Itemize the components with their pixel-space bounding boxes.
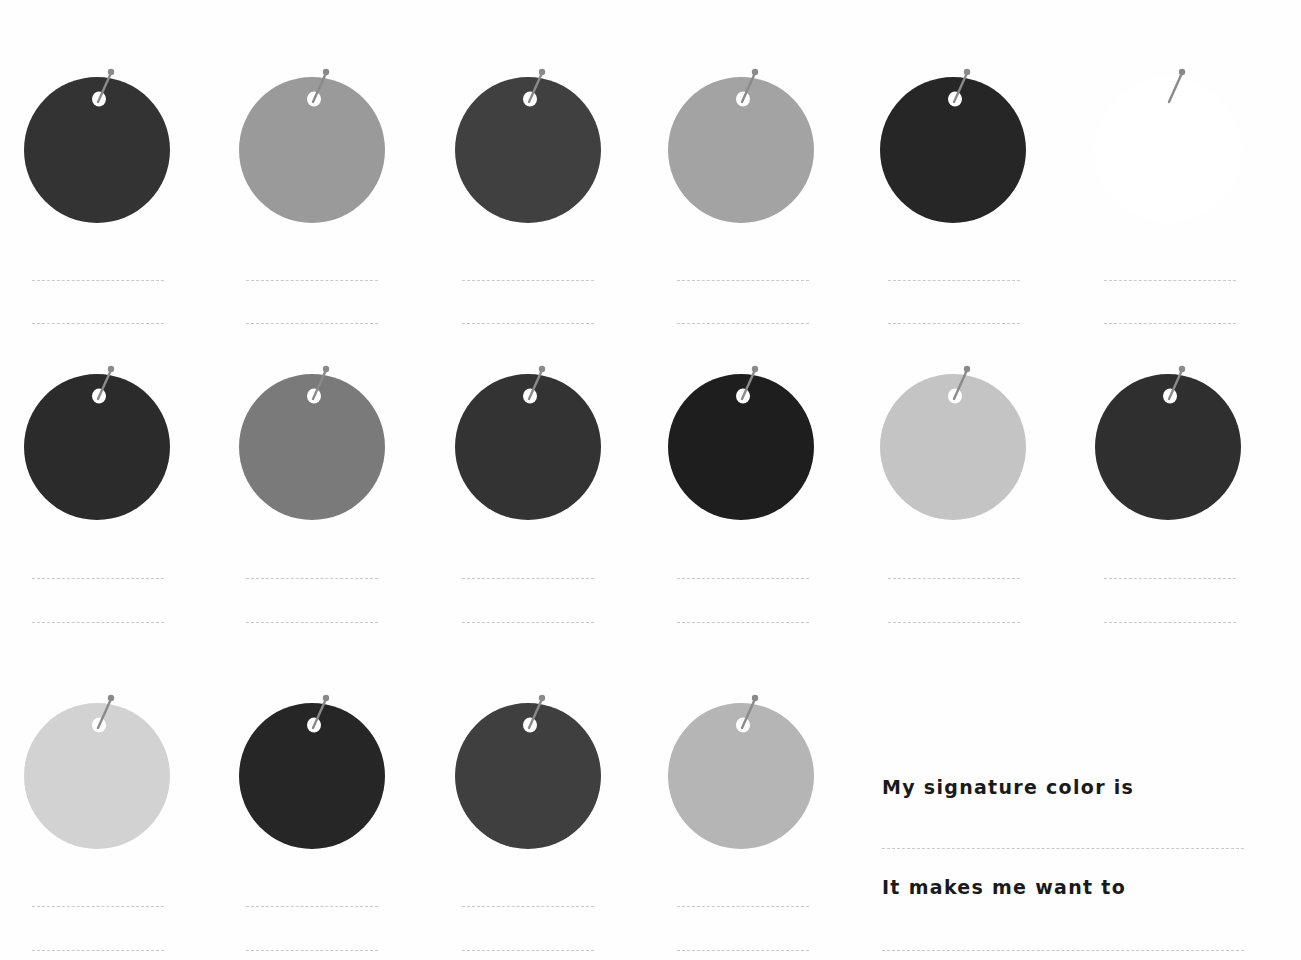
color-tag[interactable] [1095,77,1241,223]
color-tag[interactable] [24,374,170,520]
tag-shape-icon [455,344,601,520]
answer-line[interactable] [882,950,1244,951]
color-worksheet-page: My signature color is It makes me want t… [0,0,1301,960]
write-line[interactable] [32,622,164,623]
write-line[interactable] [32,280,164,281]
write-line[interactable] [888,578,1020,579]
tag-shape-icon [455,47,601,223]
color-tag[interactable] [24,77,170,223]
write-line[interactable] [1104,280,1236,281]
pin-head-icon [752,69,758,75]
tag-shape-icon [880,344,1026,520]
write-line[interactable] [888,280,1020,281]
color-tag[interactable] [455,77,601,223]
signature-color-prompt: My signature color is [882,776,1134,798]
color-tag[interactable] [24,703,170,849]
pin-head-icon [964,366,970,372]
makes-me-want-prompt: It makes me want to [882,876,1126,898]
tag-shape-icon [24,47,170,223]
color-tag[interactable] [668,703,814,849]
write-line[interactable] [246,622,378,623]
write-line[interactable] [677,906,809,907]
write-line[interactable] [462,323,594,324]
tag-shape-icon [24,344,170,520]
color-tag[interactable] [239,77,385,223]
color-tag[interactable] [239,374,385,520]
color-tag[interactable] [668,374,814,520]
pin-head-icon [1179,69,1185,75]
tag-shape-icon [1095,47,1241,223]
write-line[interactable] [462,578,594,579]
answer-line[interactable] [882,848,1244,849]
write-line[interactable] [32,950,164,951]
color-tag[interactable] [880,374,1026,520]
tag-shape-icon [668,673,814,849]
tag-shape-icon [239,673,385,849]
write-line[interactable] [32,578,164,579]
write-line[interactable] [677,950,809,951]
write-line[interactable] [677,622,809,623]
pin-head-icon [1179,366,1185,372]
color-tag[interactable] [455,374,601,520]
tag-shape-icon [668,47,814,223]
write-line[interactable] [888,323,1020,324]
write-line[interactable] [677,280,809,281]
write-line[interactable] [246,280,378,281]
color-tag[interactable] [455,703,601,849]
pin-head-icon [539,69,545,75]
write-line[interactable] [677,578,809,579]
write-line[interactable] [677,323,809,324]
pin-head-icon [964,69,970,75]
write-line[interactable] [888,622,1020,623]
tag-shape-icon [239,47,385,223]
pin-head-icon [323,69,329,75]
write-line[interactable] [462,950,594,951]
pin-head-icon [323,695,329,701]
pin-head-icon [108,69,114,75]
color-tag[interactable] [668,77,814,223]
write-line[interactable] [462,622,594,623]
write-line[interactable] [1104,578,1236,579]
pin-head-icon [323,366,329,372]
tag-shape-icon [239,344,385,520]
tag-shape-icon [455,673,601,849]
pin-head-icon [108,695,114,701]
pin-head-icon [539,366,545,372]
pin-head-icon [539,695,545,701]
write-line[interactable] [246,578,378,579]
write-line[interactable] [32,323,164,324]
color-tag[interactable] [1095,374,1241,520]
write-line[interactable] [246,950,378,951]
pin-head-icon [752,695,758,701]
tag-shape-icon [24,673,170,849]
tag-shape-icon [880,47,1026,223]
write-line[interactable] [1104,622,1236,623]
tag-shape-icon [1095,344,1241,520]
write-line[interactable] [462,280,594,281]
write-line[interactable] [246,906,378,907]
pin-head-icon [752,366,758,372]
tag-shape-icon [668,344,814,520]
write-line[interactable] [1104,323,1236,324]
write-line[interactable] [246,323,378,324]
pin-head-icon [108,366,114,372]
write-line[interactable] [462,906,594,907]
color-tag[interactable] [239,703,385,849]
write-line[interactable] [32,906,164,907]
color-tag[interactable] [880,77,1026,223]
